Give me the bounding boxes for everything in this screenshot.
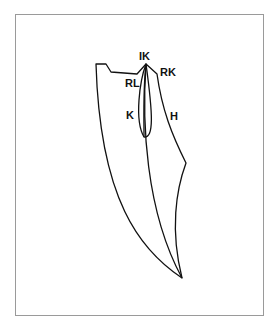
label-rk: RK [160,66,176,78]
outline-left [96,64,186,278]
fang-diagram: IK RK RL K H [0,0,278,332]
label-ik: IK [139,50,150,62]
label-rl: RL [125,77,140,89]
label-k: K [126,109,134,121]
label-h: H [170,110,178,122]
